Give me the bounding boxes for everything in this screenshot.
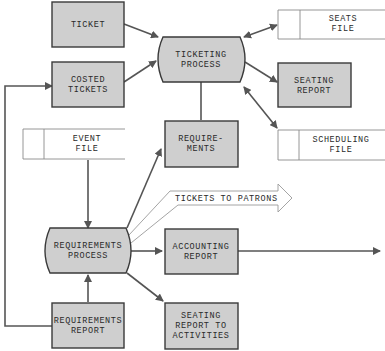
arrow-req-process-to-seating-activities [127,273,163,301]
node-seating-activities-label-2: REPORT TO [175,321,226,331]
node-event-file-label-1: EVENT [73,134,102,144]
arrow-req-report-to-costed-tickets [5,86,52,326]
node-ticket-label: TICKET [71,20,105,30]
node-costed-tickets-label-2: TICKETS [68,85,108,95]
tickets-to-patrons-label: TICKETS TO PATRONS [175,194,278,204]
node-requirements-label-1: REQUIRE- [178,134,224,144]
node-costed-tickets[interactable]: COSTED TICKETS [52,62,124,107]
node-seating-report[interactable]: SEATING REPORT [278,63,351,107]
node-accounting-report[interactable]: ACCOUNTING REPORT [165,229,238,274]
node-ticketing-process-label-2: PROCESS [181,60,221,70]
node-seating-report-label-2: REPORT [297,86,331,96]
node-requirements-report-label-2: REPORT [71,326,105,336]
node-requirements-process[interactable]: REQUIREMENTS PROCESS [45,228,131,273]
node-seats-file-label-1: SEATS [329,14,358,24]
arrow-ticket-to-ticketing [124,24,158,37]
node-seating-activities-label-3: ACTIVITIES [172,331,229,341]
node-scheduling-file[interactable]: SCHEDULING FILE [278,130,385,160]
node-requirements-report[interactable]: REQUIREMENTS REPORT [52,303,124,348]
arrow-costed-to-ticketing [124,61,156,82]
node-requirements-process-label-2: PROCESS [68,251,108,261]
node-event-file[interactable]: EVENT FILE [23,129,125,159]
node-seating-activities-label-1: SEATING [181,311,221,321]
arrow-ticketing-scheduling-file [244,87,277,128]
node-ticketing-process-label-1: TICKETING [175,50,226,60]
node-accounting-report-label-2: REPORT [184,252,218,262]
node-requirements-process-label-1: REQUIREMENTS [54,241,122,251]
node-event-file-label-2: FILE [76,144,99,154]
node-accounting-report-label-1: ACCOUNTING [172,242,229,252]
data-flow-diagram: TICKETS TO PATRONS TICKET COSTED TICKETS… [0,0,385,351]
node-scheduling-file-label-2: FILE [330,145,353,155]
node-seating-report-to-activities[interactable]: SEATING REPORT TO ACTIVITIES [165,303,238,349]
node-scheduling-file-label-1: SCHEDULING [312,135,369,145]
node-requirements-label-2: MENTS [187,144,216,154]
node-ticket[interactable]: TICKET [52,2,124,47]
node-costed-tickets-label-1: COSTED [71,75,105,85]
node-requirements-report-label-1: REQUIREMENTS [54,316,122,326]
node-seats-file[interactable]: SEATS FILE [278,10,385,39]
arrow-ticketing-to-seating-report [245,62,277,82]
node-requirements[interactable]: REQUIRE- MENTS [165,121,238,167]
node-seating-report-label-1: SEATING [294,76,334,86]
arrow-ticketing-seats-file [244,25,277,37]
node-ticketing-process[interactable]: TICKETING PROCESS [158,37,245,82]
node-seats-file-label-2: FILE [332,24,355,34]
